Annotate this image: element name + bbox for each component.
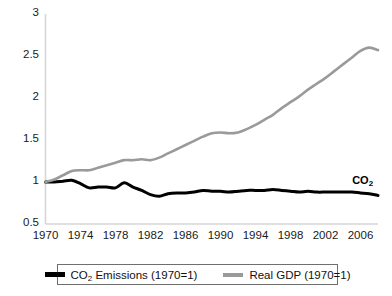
x-tick-label: 2002 [306,229,346,241]
legend-swatch-gdp-icon [223,273,243,277]
y-tick-label: 3 [2,6,39,18]
y-tick-label: 2 [2,90,39,102]
legend-label-main: CO [71,269,88,281]
inline-label-text: CO [352,174,369,186]
series-layer [46,48,379,197]
x-tick-label: 1990 [201,229,241,241]
x-tick-label: 1994 [236,229,276,241]
legend-swatch-co2-icon [45,272,65,277]
legend-label-main: Real GDP (1970=1) [249,269,350,281]
chart-svg [0,0,392,260]
y-tick-label: 1.5 [2,132,39,144]
x-tick-label: 1986 [166,229,206,241]
legend-label-co2: CO2 Emissions (1970=1) [71,269,198,281]
y-tick-label: 0.5 [2,216,39,228]
series-line-co2 [46,180,379,196]
x-tick-label: 1970 [26,229,66,241]
x-tick-label: 2006 [341,229,381,241]
x-tick-label: 1974 [61,229,101,241]
y-tick-label: 1 [2,174,39,186]
legend-label-subscript: 2 [88,274,92,283]
plot-area: 0.511.522.53 197019741978198219861990199… [0,0,392,260]
chart-legend: CO2 Emissions (1970=1) Real GDP (1970=1) [57,264,338,285]
legend-label-rest: Emissions (1970=1) [92,269,197,281]
x-tick-label: 1978 [96,229,136,241]
x-tick-label: 1982 [131,229,171,241]
legend-label-gdp: Real GDP (1970=1) [249,269,350,281]
chart-container: 0.511.522.53 197019741978198219861990199… [0,0,392,296]
y-tick-label: 2.5 [2,48,39,60]
legend-item-co2: CO2 Emissions (1970=1) [45,269,198,281]
series-line-gdp [46,48,379,182]
legend-item-gdp: Real GDP (1970=1) [223,269,350,281]
inline-label-subscript: 2 [369,179,373,188]
inline-series-label-co2: CO2 [352,174,373,186]
x-tick-label: 1998 [271,229,311,241]
